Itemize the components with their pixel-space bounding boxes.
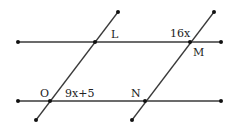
- label-L: L: [111, 28, 119, 41]
- label-N: N: [131, 87, 141, 100]
- endpoint-right-transversal-top: [212, 10, 216, 14]
- point-N: [143, 99, 147, 103]
- angle-label-9x-plus-5: 9x+5: [65, 87, 94, 100]
- parallel-lines-diagram: L M O N 16x 9x+5: [0, 0, 234, 128]
- point-M: [188, 40, 192, 44]
- endpoint-top-right: [219, 40, 223, 44]
- label-O: O: [40, 87, 49, 100]
- endpoint-right-transversal-bottom: [130, 118, 134, 122]
- label-M: M: [193, 46, 204, 59]
- endpoint-bottom-left: [16, 99, 20, 103]
- point-L: [93, 40, 97, 44]
- endpoint-bottom-right: [219, 99, 223, 103]
- left-transversal: [36, 12, 118, 120]
- angle-label-16x: 16x: [170, 27, 191, 40]
- endpoint-top-left: [16, 40, 20, 44]
- endpoint-left-transversal-bottom: [34, 118, 38, 122]
- endpoint-left-transversal-top: [116, 10, 120, 14]
